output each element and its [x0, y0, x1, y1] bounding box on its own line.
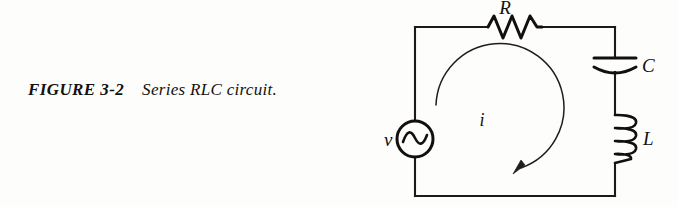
ac-voltage-source-symbol: [397, 121, 433, 157]
series-rlc-circuit-diagram: R C L v: [370, 0, 678, 207]
capacitor-label: C: [642, 55, 655, 76]
resistor-symbol: [488, 16, 542, 38]
figure-title-text: Series RLC circuit.: [142, 80, 277, 99]
current-direction-arrow: [436, 44, 564, 174]
figure-page: FIGURE 3-2Series RLC circuit.: [0, 0, 678, 207]
figure-caption: FIGURE 3-2Series RLC circuit.: [28, 80, 277, 100]
current-label: i: [479, 110, 484, 130]
figure-number-label: FIGURE 3-2: [28, 80, 124, 99]
inductor-label: L: [642, 128, 654, 149]
source-voltage-label: v: [384, 129, 393, 150]
capacitor-symbol: [594, 58, 636, 73]
inductor-symbol: [615, 115, 636, 163]
resistor-label: R: [498, 0, 511, 18]
